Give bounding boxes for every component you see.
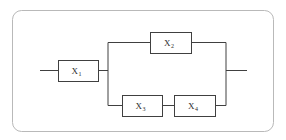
block-x2[interactable]: X2 xyxy=(151,33,192,54)
reliability-block-diagram: X1X2X3X4 xyxy=(0,0,286,140)
block-x1[interactable]: X1 xyxy=(59,61,99,82)
diagram-canvas: X1X2X3X4 xyxy=(0,0,286,140)
block-subscript-x2: 2 xyxy=(171,43,174,49)
block-x4[interactable]: X4 xyxy=(175,96,216,117)
block-subscript-x4: 4 xyxy=(195,106,198,112)
block-subscript-x3: 3 xyxy=(143,106,146,112)
block-subscript-x1: 1 xyxy=(79,71,82,77)
block-x3[interactable]: X3 xyxy=(123,96,163,117)
